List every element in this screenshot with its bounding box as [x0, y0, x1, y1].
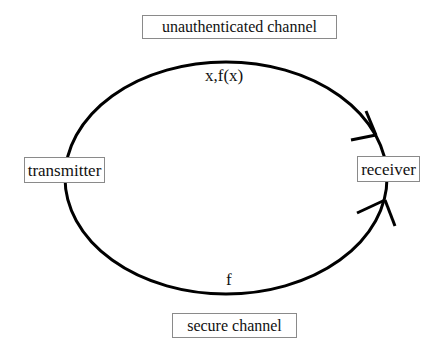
channel-loop	[65, 62, 387, 294]
secure-channel-label: secure channel	[172, 313, 297, 338]
message-f: f	[226, 271, 232, 288]
secure-channel-text: secure channel	[187, 318, 282, 334]
transmitter-node: transmitter	[24, 157, 105, 183]
receiver-node: receiver	[357, 156, 420, 182]
message-x-fx: x,f(x)	[205, 67, 243, 84]
receiver-text: receiver	[361, 161, 416, 178]
unauthenticated-channel-text: unauthenticated channel	[162, 19, 317, 35]
transmitter-text: transmitter	[28, 162, 102, 179]
unauthenticated-channel-label: unauthenticated channel	[142, 15, 337, 39]
